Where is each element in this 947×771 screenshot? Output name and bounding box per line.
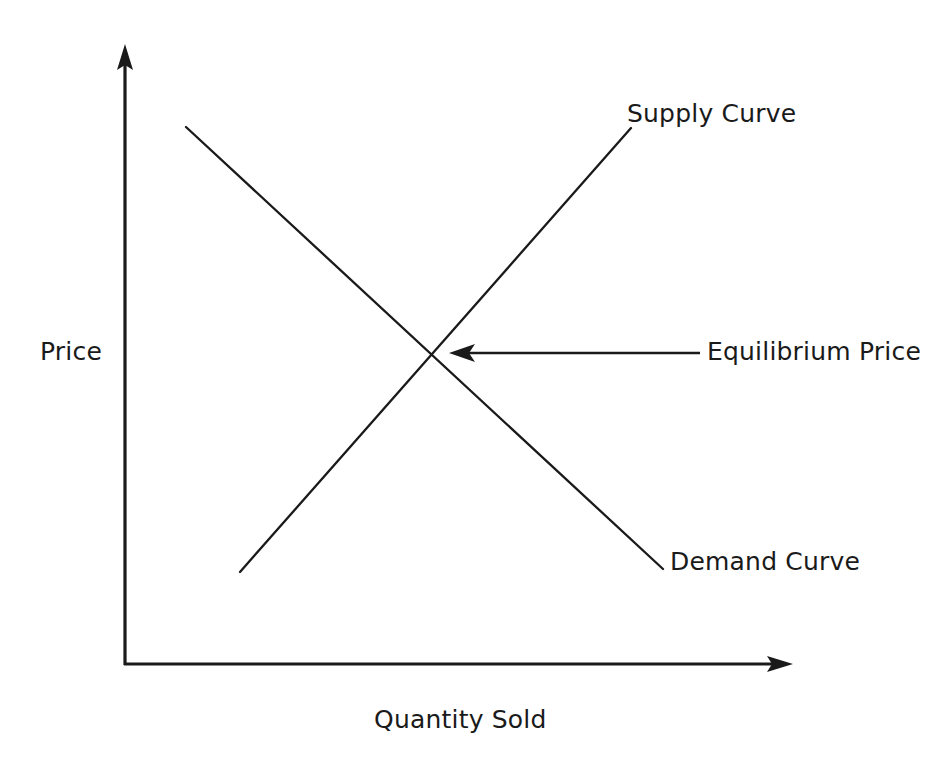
x-axis-label: Quantity Sold xyxy=(374,707,547,732)
equilibrium-price-label: Equilibrium Price xyxy=(707,339,921,364)
demand-curve-label: Demand Curve xyxy=(670,549,860,574)
diagram-canvas xyxy=(0,0,947,771)
x-axis xyxy=(124,656,793,672)
supply-curve-line xyxy=(240,128,631,572)
y-axis-label: Price xyxy=(40,339,102,364)
supply-curve-label: Supply Curve xyxy=(627,101,796,126)
supply-demand-diagram: Supply Curve Equilibrium Price Demand Cu… xyxy=(0,0,947,771)
equilibrium-arrow xyxy=(449,344,700,362)
y-axis xyxy=(117,44,133,665)
demand-curve-line xyxy=(186,127,663,569)
